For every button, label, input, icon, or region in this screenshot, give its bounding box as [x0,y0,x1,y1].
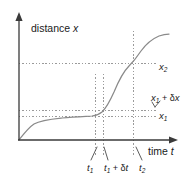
y-tick-label-x1-plus-dx-var: x [175,92,180,103]
y-tick-label-x1-subscript: 1 [164,115,168,122]
leader-line-t2 [136,147,142,160]
x-axis-title-symbol: t [171,145,174,157]
leader-line-t1-plus-dt [104,147,108,160]
x-axis-arrowhead [169,136,178,143]
distance-time-graph-figure: distance x time t x2 x1 + δx x1 t1 t1 + … [0,0,192,187]
y-axis-title-text: distance [31,22,73,34]
x-axis-title-text: time [148,145,171,157]
x-tick-label-t1-plus-dt-var: t [126,162,129,173]
x-tick-label-t2-subscript: 2 [142,167,146,174]
x-tick-label-t1-subscript: 1 [90,167,94,174]
x-tick-label-t1: t1 [87,163,93,174]
y-axis-arrowhead [15,12,22,21]
x-axis-title: time t [148,146,174,157]
leader-line-t1 [91,147,97,160]
y-tick-label-x2-subscript: 2 [164,66,168,73]
horizontal-guide-lines [19,63,156,116]
x-tick-label-t1-plus-dt: t1 + δt [104,163,128,174]
x-tick-label-t2: t2 [139,163,145,174]
x-tick-label-t1-plus-dt-operator: + [110,163,120,173]
y-tick-label-x1: x1 [159,111,167,122]
y-axis-title-symbol: x [73,22,78,34]
y-axis-title: distance x [31,23,78,34]
y-tick-label-x1-plus-dx: x1 + δx [151,93,179,104]
y-tick-label-x1-plus-dx-operator: + [159,93,169,103]
y-tick-label-x2: x2 [159,62,167,73]
distance-curve [19,34,169,140]
